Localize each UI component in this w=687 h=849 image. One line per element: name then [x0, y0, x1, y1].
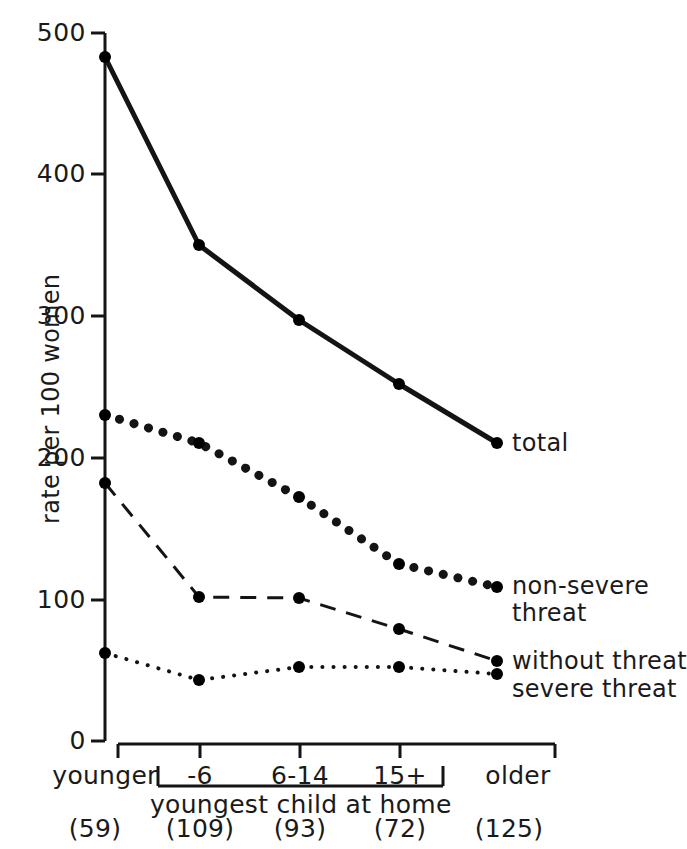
y-tick-label-100: 100 — [0, 585, 86, 614]
series-non-severe-threat-point — [293, 491, 305, 503]
series-label-non-severe-line2: threat — [512, 599, 587, 627]
series-severe-threat-point — [99, 647, 111, 659]
x-category-label-older: older — [448, 761, 588, 790]
series-non-severe-threat-point — [99, 409, 111, 421]
series-non-severe-threat-point — [491, 581, 503, 593]
sample-size-6to14: (93) — [246, 814, 354, 843]
series-non-severe-threat-point — [193, 437, 205, 449]
series-severe-threat-point — [193, 674, 205, 686]
series-severe-threat — [99, 647, 503, 686]
series-without-threat-point — [293, 592, 305, 604]
series-label-severe-threat: severe threat — [512, 676, 677, 703]
y-axis-title: rate per 100 women — [37, 294, 65, 524]
series-non-severe-threat — [99, 409, 503, 593]
series-without-threat-point — [491, 655, 503, 667]
series-total-point — [293, 314, 305, 326]
series-without-threat-point — [393, 623, 405, 635]
series-total-point — [99, 51, 111, 63]
series-severe-threat-point — [393, 661, 405, 673]
x-category-label-6to14: 6-14 — [245, 761, 355, 790]
series-total-point — [193, 239, 205, 251]
series-label-non-severe-line1: non-severe — [512, 572, 649, 600]
series-total-point — [491, 437, 503, 449]
series-without-threat-point — [193, 591, 205, 603]
x-category-label-15plus: 15+ — [350, 761, 450, 790]
series-label-without-threat: without threat — [512, 648, 687, 675]
series-total-line — [105, 57, 497, 443]
y-tick-label-500: 500 — [0, 18, 86, 47]
series-label-non-severe-threat: non-severe threat — [512, 573, 649, 627]
y-tick-label-0: 0 — [0, 726, 86, 755]
sample-size-15plus: (72) — [346, 814, 454, 843]
series-without-threat-line — [105, 483, 497, 661]
series-non-severe-threat-point — [393, 558, 405, 570]
y-tick-label-400: 400 — [0, 159, 86, 188]
series-without-threat-point — [99, 477, 111, 489]
x-category-label-under6: -6 — [150, 761, 250, 790]
series-severe-threat-point — [491, 668, 503, 680]
series-severe-threat-point — [293, 661, 305, 673]
sample-size-older: (125) — [446, 814, 572, 843]
series-total — [99, 51, 503, 449]
series-total-point — [393, 378, 405, 390]
series-label-total: total — [512, 430, 568, 457]
sample-size-under6: (109) — [138, 814, 262, 843]
